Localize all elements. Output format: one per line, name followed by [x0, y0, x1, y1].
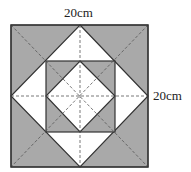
top-dimension-label: 20cm — [64, 5, 93, 21]
right-dimension-label: 20cm — [153, 88, 182, 104]
nested-squares-diagram — [0, 0, 191, 172]
